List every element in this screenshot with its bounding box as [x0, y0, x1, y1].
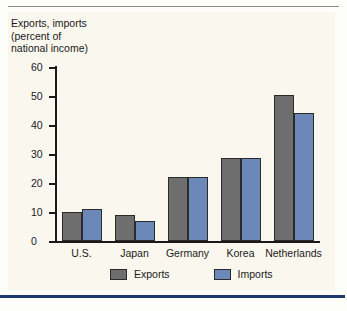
- bar-exports: [62, 212, 82, 241]
- bar-imports: [188, 177, 208, 241]
- x-axis-tick-label: Germany: [166, 247, 209, 259]
- top-divider-rule: [8, 6, 339, 7]
- bar-group: [115, 67, 155, 241]
- bar-exports: [115, 215, 135, 241]
- legend-swatch-imports: [214, 269, 231, 280]
- y-axis-tick: [49, 67, 55, 69]
- x-axis-tick-label: Korea: [226, 247, 254, 259]
- bar-exports: [274, 95, 294, 241]
- x-axis-tick-label: Netherlands: [265, 247, 322, 259]
- chart-legend: Exports Imports: [110, 268, 273, 280]
- bar-imports: [241, 158, 261, 241]
- bar-exports: [221, 158, 241, 241]
- legend-label-imports: Imports: [238, 268, 273, 280]
- bar-group: [62, 67, 102, 241]
- chart-figure: Exports, imports (percent of national in…: [0, 0, 347, 311]
- legend-label-exports: Exports: [134, 268, 170, 280]
- chart-axis-title: Exports, imports (percent of national in…: [11, 17, 171, 55]
- y-axis-tick-label: 20: [31, 177, 43, 189]
- y-axis-tick-label: 60: [31, 61, 43, 73]
- bar-group: [221, 67, 261, 241]
- y-axis-tick: [49, 154, 55, 156]
- y-axis-tick: [49, 125, 55, 127]
- bottom-divider-rule: [0, 295, 345, 298]
- y-axis-tick-label: 30: [31, 148, 43, 160]
- y-axis-tick-label: 0: [31, 235, 43, 247]
- bar-imports: [82, 209, 102, 241]
- x-axis-tick-label: U.S.: [71, 247, 91, 259]
- y-axis-tick-label: 10: [31, 206, 43, 218]
- bar-group: [274, 67, 314, 241]
- y-axis-tick: [49, 212, 55, 214]
- bar-imports: [135, 221, 155, 241]
- legend-item-exports: Exports: [110, 268, 170, 280]
- y-axis-tick: [49, 183, 55, 185]
- y-axis-tick: [49, 96, 55, 98]
- y-axis-tick: [49, 241, 55, 243]
- bar-exports: [168, 177, 188, 241]
- legend-swatch-exports: [110, 269, 127, 280]
- bar-imports: [294, 113, 314, 241]
- legend-item-imports: Imports: [214, 268, 273, 280]
- plot-area: 0102030405060: [55, 67, 320, 241]
- x-axis-line: [55, 241, 320, 243]
- x-axis-tick-label: Japan: [120, 247, 149, 259]
- y-axis-tick-label: 50: [31, 90, 43, 102]
- y-axis-tick-label: 40: [31, 119, 43, 131]
- bar-group: [168, 67, 208, 241]
